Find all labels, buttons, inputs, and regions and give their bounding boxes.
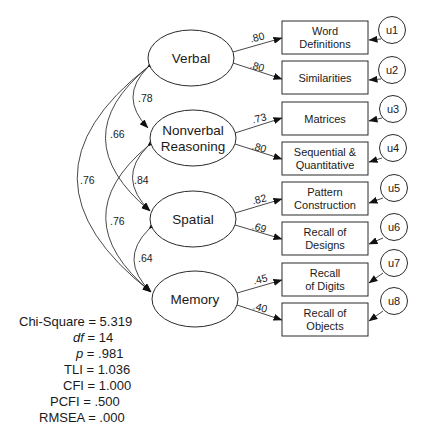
error-terms: u1 u2 u3 u4 u5 u6 u7 u8 (369, 17, 408, 322)
stat-value: = 14 (87, 330, 113, 345)
stat-label: df (73, 330, 84, 345)
stat-value: = 1.000 (88, 378, 132, 393)
indicator-label: of Digits (305, 280, 345, 292)
corr-nonverbal-memory: .76 (110, 215, 125, 227)
indicator-label: Similarities (298, 72, 352, 84)
indicator-label: Construction (294, 199, 356, 211)
corr-verbal-nonverbal: .78 (138, 92, 153, 104)
indicator-word-definitions: Word Definitions (282, 21, 368, 54)
stat-label: TLI (64, 362, 83, 377)
indicator-label: Matrices (304, 113, 346, 125)
loading-sequential-quantitative: .80 (251, 139, 268, 155)
indicator-recall-of-objects: Recall of Objects (282, 303, 368, 336)
error-u7-label: u7 (388, 257, 400, 269)
indicator-similarities: Similarities (282, 61, 368, 94)
error-u4-label: u4 (387, 142, 399, 154)
error-u2-label: u2 (386, 64, 398, 76)
stat-p: p = .981 (76, 346, 123, 362)
stat-label: p (76, 346, 83, 361)
stat-value: = 5.319 (88, 314, 132, 329)
stat-label: PCFI (50, 394, 80, 409)
corr-spatial-memory: .64 (138, 252, 153, 264)
indicator-label: Word (312, 25, 338, 37)
indicator-recall-of-designs: Recall of Designs (282, 222, 368, 255)
stat-pcfi: PCFI = .500 (50, 394, 120, 410)
indicator-recall-of-digits: Recall of Digits (282, 263, 368, 296)
stat-label: Chi-Square (19, 314, 85, 329)
loading-recall-of-objects: .40 (252, 299, 269, 315)
loading-similarities: .80 (249, 58, 266, 74)
loading-word-definitions: .80 (249, 29, 266, 44)
latent-spatial-label: Spatial (172, 212, 213, 227)
indicator-label: Recall (310, 267, 341, 279)
error-u1-label: u1 (386, 24, 398, 36)
latent-verbal-label: Verbal (172, 51, 210, 66)
indicator-matrices: Matrices (282, 102, 368, 135)
stat-label: RMSEA (39, 410, 85, 425)
error-u6-label: u6 (388, 221, 400, 233)
stat-df: df = 14 (73, 330, 113, 346)
corr-verbal-memory: .76 (80, 174, 95, 186)
indicator-label: Definitions (299, 38, 351, 50)
latent-nonverbal-label-line2: Reasoning (161, 139, 226, 154)
indicator-label: Pattern (307, 186, 342, 198)
latent-verbal: Verbal (148, 30, 234, 86)
stat-value: = .981 (87, 346, 124, 361)
corr-verbal-spatial: .66 (110, 128, 125, 140)
indicator-label: Quantitative (296, 159, 355, 171)
stat-rmsea: RMSEA = .000 (39, 410, 125, 426)
error-u5-label: u5 (388, 182, 400, 194)
stat-cfi: CFI = 1.000 (63, 378, 131, 394)
latent-memory: Memory (152, 271, 238, 327)
loading-recall-of-designs: .69 (251, 219, 268, 235)
indicator-label: Recall of (304, 226, 348, 238)
error-u8-label: u8 (388, 295, 400, 307)
stat-tli: TLI = 1.036 (64, 362, 130, 378)
stat-value: = .000 (88, 410, 125, 425)
latent-nonverbal-reasoning: Nonverbal Reasoning (150, 110, 236, 166)
error-u3-label: u3 (387, 103, 399, 115)
indicator-label: Sequential & (294, 146, 357, 158)
latent-memory-label: Memory (171, 292, 220, 307)
indicator-label: Objects (306, 320, 344, 332)
indicator-label: Designs (305, 239, 345, 251)
indicator-pattern-construction: Pattern Construction (282, 182, 368, 215)
indicator-label: Recall of (304, 307, 348, 319)
stat-label: CFI (63, 378, 84, 393)
stat-chi-square: Chi-Square = 5.319 (19, 314, 132, 330)
stat-value: = .500 (83, 394, 120, 409)
latent-nonverbal-label-line1: Nonverbal (162, 123, 224, 138)
latent-spatial: Spatial (150, 191, 236, 247)
corr-nonverbal-spatial: .84 (134, 174, 149, 186)
indicator-sequential-quantitative: Sequential & Quantitative (282, 142, 368, 175)
stat-value: = 1.036 (86, 362, 130, 377)
